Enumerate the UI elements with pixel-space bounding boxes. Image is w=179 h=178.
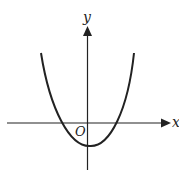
origin-label: O <box>75 124 86 139</box>
coordinate-diagram: y x O <box>0 0 179 178</box>
x-axis-label: x <box>172 114 179 130</box>
x-axis-arrow-icon <box>161 119 171 128</box>
y-axis-arrow-icon <box>83 26 92 36</box>
y-axis-label: y <box>82 9 92 25</box>
